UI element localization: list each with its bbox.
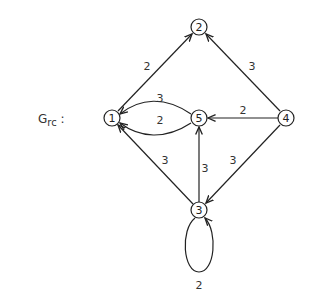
weight-3-3-loop: 2 bbox=[196, 279, 203, 292]
edge-4-2 bbox=[206, 34, 280, 111]
edge-1-2 bbox=[118, 34, 192, 111]
edge-3-3-loop bbox=[185, 218, 213, 272]
weight-1-2: 2 bbox=[144, 60, 151, 73]
node-5-label: 5 bbox=[196, 112, 203, 125]
graph-diagram: 1 2 3 4 5 2 3 3 2 2 3 3 3 2 bbox=[0, 0, 312, 308]
node-1-label: 1 bbox=[109, 112, 116, 125]
edge-5-1-lower bbox=[120, 123, 191, 135]
weight-5-1-upper: 3 bbox=[157, 92, 164, 105]
weight-4-2: 3 bbox=[249, 60, 256, 73]
node-4-label: 4 bbox=[283, 112, 290, 125]
node-2-label: 2 bbox=[196, 21, 203, 34]
weight-4-3: 3 bbox=[230, 154, 237, 167]
weight-5-1-lower: 2 bbox=[157, 114, 164, 127]
weight-4-5: 2 bbox=[240, 104, 247, 117]
node-3-label: 3 bbox=[196, 204, 203, 217]
weight-3-1: 3 bbox=[162, 154, 169, 167]
edge-4-3 bbox=[206, 125, 280, 203]
edge-5-1-upper bbox=[120, 101, 191, 114]
weight-3-5: 3 bbox=[202, 162, 209, 175]
edge-3-1 bbox=[118, 125, 193, 204]
